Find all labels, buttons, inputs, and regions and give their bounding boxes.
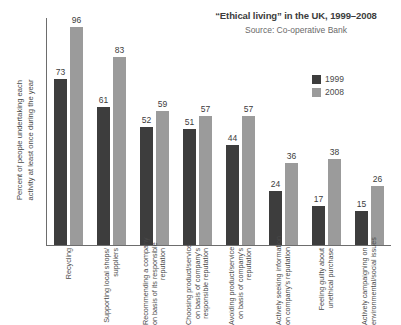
x-axis-label-cell: Avoiding product/serviceon basis of comp… [219,248,262,325]
x-axis-line [46,245,391,246]
bar-2008: 59 [156,111,169,245]
bar-value-label: 15 [357,199,366,209]
bar-value-label: 52 [142,115,151,125]
bars-layer: 73966183525951574457243617381526 [47,18,391,245]
bar-group: 5157 [176,18,219,245]
bar-1999: 51 [183,129,196,245]
bar-group: 4457 [219,18,262,245]
bar-group: 6183 [90,18,133,245]
bar-2008: 83 [113,57,126,245]
bar-value-label: 61 [99,95,108,105]
x-axis-label: Recommending a companyon basis of its re… [142,248,168,325]
bar-value-label: 17 [314,194,323,204]
bar-1999: 44 [226,145,239,245]
bar-group: 2436 [262,18,305,245]
x-axis-label-cell: Recycling [47,248,90,325]
bar-value-label: 73 [56,67,65,77]
bar-value-label: 44 [228,133,237,143]
bar-group: 1526 [348,18,391,245]
bar-2008: 57 [199,116,212,245]
x-axis-label-cell: Actively campaigning onenvironmental/soc… [348,248,391,325]
x-axis-labels: RecyclingSupporting local shops/supplier… [47,248,391,325]
bar-2008: 96 [70,27,83,245]
bar-1999: 15 [355,211,368,245]
x-axis-label: Actively seeking informationon company's… [275,248,292,325]
bar-group: 1738 [305,18,348,245]
bar-value-label: 26 [373,174,382,184]
bar-value-label: 57 [244,104,253,114]
bar-2008: 38 [328,159,341,245]
x-axis-label-cell: Recommending a companyon basis of its re… [133,248,176,325]
bar-2008: 36 [285,163,298,245]
x-axis-label-cell: Supporting local shops/suppliers [90,248,133,325]
bar-value-label: 83 [115,45,124,55]
x-axis-label: Actively campaigning onenvironmental/soc… [361,248,378,325]
x-axis-label: Choosing product/serviceon basis of comp… [185,248,211,325]
x-axis-label: Avoiding product/serviceon basis of comp… [228,248,254,325]
y-axis-title-line2: activity at least once during the year [25,34,36,246]
bar-value-label: 36 [287,151,296,161]
ethical-living-bar-chart: “Ethical living” in the UK, 1999–2008 So… [0,0,401,325]
y-axis-title-line1: Percent of people undertaking each [15,34,26,246]
bar-1999: 17 [312,206,325,245]
bar-1999: 73 [54,79,67,245]
x-axis-label-cell: Feeling guilty aboutunethical purchase [305,248,348,325]
plot-area: 73966183525951574457243617381526 [46,18,391,246]
x-axis-label: Feeling guilty aboutunethical purchase [318,248,335,325]
bar-value-label: 96 [72,15,81,25]
x-axis-label: Supporting local shops/suppliers [103,248,120,325]
bar-1999: 61 [97,107,110,245]
x-axis-label: Recycling [64,248,73,325]
bar-group: 7396 [47,18,90,245]
x-axis-label-cell: Choosing product/serviceon basis of comp… [176,248,219,325]
bar-1999: 52 [140,127,153,245]
bar-value-label: 24 [271,179,280,189]
bar-value-label: 57 [201,104,210,114]
y-axis-title: Percent of people undertaking each activ… [8,34,42,246]
bar-2008: 57 [242,116,255,245]
bar-value-label: 51 [185,117,194,127]
bar-value-label: 38 [330,147,339,157]
bar-group: 5259 [133,18,176,245]
bar-value-label: 59 [158,99,167,109]
x-axis-label-cell: Actively seeking informationon company's… [262,248,305,325]
